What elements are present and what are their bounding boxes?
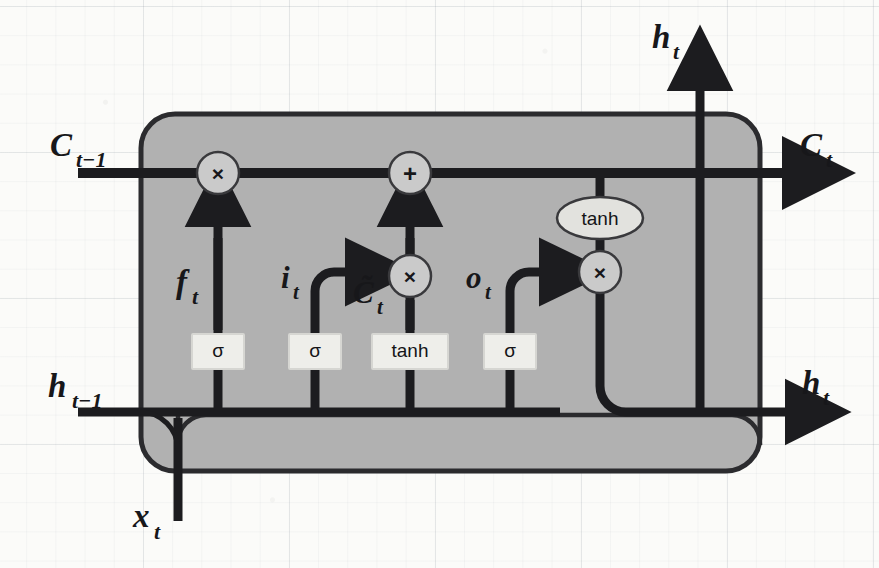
label-h-t-top-base: h — [652, 19, 670, 55]
state-tanh-label: tanh — [582, 208, 619, 229]
label-c-tilde-t-base: C̃ — [353, 275, 374, 310]
label-h-prev-sub: t−1 — [72, 388, 102, 413]
op-forget-multiply-glyph: × — [212, 162, 224, 185]
label-i-t-base: i — [281, 260, 290, 295]
gate-box-forget[interactable]: σ — [192, 334, 244, 369]
lstm-cell-svg: σ σ tanh σ tanh × + × — [0, 0, 879, 568]
gate-box-output-label: σ — [504, 340, 516, 361]
label-f-t-sub: t — [192, 284, 199, 309]
op-state-add[interactable]: + — [389, 152, 431, 194]
label-h-t-right-sub: t — [823, 385, 830, 410]
label-c-t-base: C — [800, 127, 823, 163]
op-state-add-glyph: + — [403, 160, 417, 187]
label-x-t-base: x — [132, 498, 150, 534]
gate-box-input-label: σ — [309, 340, 321, 361]
label-h-t-right-base: h — [802, 365, 820, 401]
gate-box-output[interactable]: σ — [484, 334, 536, 369]
label-h-t-top: h t — [652, 19, 680, 64]
label-h-t-right: h t — [802, 365, 830, 410]
label-c-t: C t — [800, 127, 833, 172]
op-forget-multiply[interactable]: × — [197, 152, 239, 194]
op-output-multiply[interactable]: × — [579, 251, 621, 293]
label-h-prev: h t−1 — [48, 368, 102, 413]
gate-box-candidate-label: tanh — [392, 340, 429, 361]
op-input-multiply-glyph: × — [404, 265, 416, 288]
label-c-t-sub: t — [826, 147, 833, 172]
gate-box-input[interactable]: σ — [289, 334, 341, 369]
gate-box-forget-label: σ — [212, 340, 224, 361]
label-x-t: x t — [132, 498, 161, 544]
label-c-prev-base: C — [50, 127, 73, 163]
gate-box-candidate[interactable]: tanh — [372, 334, 448, 369]
lstm-diagram-canvas: σ σ tanh σ tanh × + × — [0, 0, 879, 568]
op-input-multiply[interactable]: × — [389, 255, 431, 297]
label-o-t-base: o — [466, 260, 482, 295]
label-x-t-sub: t — [154, 519, 161, 544]
label-h-prev-base: h — [48, 368, 66, 404]
label-c-prev-sub: t−1 — [76, 147, 106, 172]
label-c-prev: C t−1 — [50, 127, 106, 172]
state-tanh-ellipse[interactable]: tanh — [557, 197, 643, 239]
op-output-multiply-glyph: × — [594, 261, 606, 284]
label-h-t-top-sub: t — [673, 39, 680, 64]
